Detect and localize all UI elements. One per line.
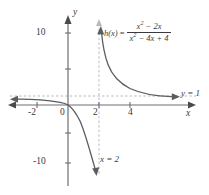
- denominator-rest: − 4x + 4: [136, 33, 168, 43]
- x-axis-label: x: [186, 109, 190, 119]
- graph-figure: 10 -10 -2 0 2 4 y x y = 1 x = 2 h(x) = x…: [0, 0, 209, 195]
- xtick-label-0: 0: [60, 108, 65, 118]
- vertical-asymptote: [96, 19, 102, 176]
- equation-fraction: x2 − 2x x2 − 4x + 4: [127, 22, 170, 44]
- xtick-label-2: 2: [93, 108, 98, 118]
- ytick-label-neg10: -10: [33, 157, 46, 167]
- y-axis-label: y: [73, 8, 77, 18]
- curve-left-branch: [10, 96, 99, 176]
- equation-numerator: x2 − 2x: [135, 22, 164, 32]
- equation-lhs: h(x): [104, 28, 118, 38]
- horizontal-asymptote-label: y = 1: [181, 89, 200, 98]
- y-axis: [65, 15, 72, 186]
- ytick-label-10: 10: [36, 28, 46, 38]
- numerator-rest: − 2x: [143, 21, 161, 31]
- equation-equals-sign: =: [120, 28, 125, 38]
- x-axis: [8, 102, 196, 109]
- vertical-asymptote-label: x = 2: [100, 155, 119, 164]
- function-equation: h(x) = x2 − 2x x2 − 4x + 4: [104, 22, 171, 44]
- xtick-label-neg2: -2: [28, 108, 36, 118]
- equation-denominator: x2 − 4x + 4: [127, 33, 170, 43]
- xtick-label-4: 4: [128, 108, 133, 118]
